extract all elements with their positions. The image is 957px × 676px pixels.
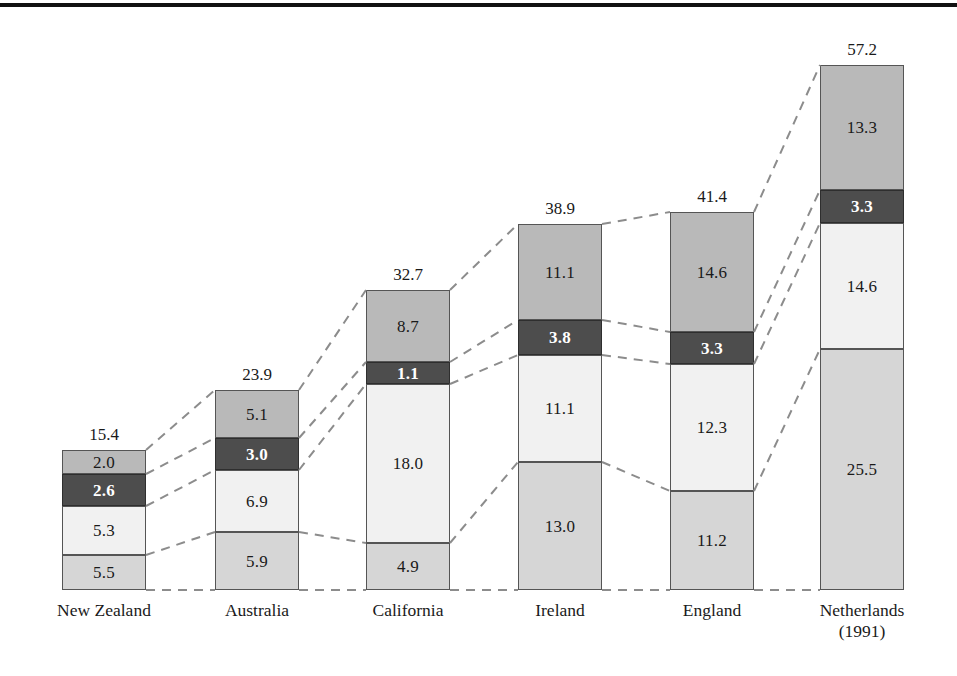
bar-segment: 5.1	[215, 390, 299, 438]
bar-segment: 5.9	[215, 532, 299, 590]
category-label: New Zealand	[24, 600, 184, 621]
category-label-text: New Zealand	[57, 600, 151, 620]
bar-total-label: 38.9	[518, 200, 602, 217]
bar-segment: 18.0	[366, 384, 450, 543]
segment-value-label: 18.0	[393, 455, 424, 472]
segment-value-label: 12.3	[697, 419, 728, 436]
bar-segment: 3.3	[670, 332, 754, 364]
stacked-bar: 5.13.06.95.9	[215, 0, 299, 590]
bar-segment: 11.2	[670, 491, 754, 590]
bar-total-label: 41.4	[670, 188, 754, 205]
category-label-text: Ireland	[535, 600, 585, 620]
segment-value-label: 1.1	[397, 365, 419, 382]
category-label-text: Australia	[225, 600, 289, 620]
segment-value-label: 3.3	[701, 340, 723, 357]
segment-value-label: 3.0	[246, 446, 268, 463]
category-label-text: California	[373, 600, 444, 620]
category-label-text: England	[683, 600, 741, 620]
segment-value-label: 4.9	[397, 558, 419, 575]
category-label: Ireland	[480, 600, 640, 621]
segment-value-label: 2.6	[93, 482, 115, 499]
bar-segment: 11.1	[518, 355, 602, 462]
bar-total-label: 57.2	[820, 41, 904, 58]
segment-value-label: 5.3	[93, 522, 115, 539]
segment-value-label: 25.5	[847, 461, 878, 478]
bar-total-label: 23.9	[215, 366, 299, 383]
stacked-bar: 13.33.314.625.5	[820, 0, 904, 590]
segment-value-label: 6.9	[246, 493, 268, 510]
bar-segment: 3.0	[215, 438, 299, 470]
bar-segment: 8.7	[366, 290, 450, 362]
bar-segment: 14.6	[820, 223, 904, 349]
bar-total-label: 15.4	[62, 426, 146, 443]
segment-value-label: 5.1	[246, 406, 268, 423]
category-sublabel-text: (1991)	[782, 621, 942, 642]
stacked-bar: 11.13.811.113.0	[518, 0, 602, 590]
bar-segment: 6.9	[215, 470, 299, 532]
category-label: Netherlands(1991)	[782, 600, 942, 643]
bar-segment: 3.3	[820, 190, 904, 223]
stacked-bar: 2.02.65.35.5	[62, 0, 146, 590]
bar-segment: 1.1	[366, 362, 450, 384]
bar-segment: 13.3	[820, 65, 904, 190]
category-label: California	[328, 600, 488, 621]
segment-value-label: 11.2	[697, 532, 727, 549]
bar-segment: 2.6	[62, 474, 146, 506]
segment-value-label: 5.5	[93, 564, 115, 581]
segment-value-label: 11.1	[545, 264, 575, 281]
bar-segment: 2.0	[62, 450, 146, 474]
stacked-bar: 14.63.312.311.2	[670, 0, 754, 590]
bar-segment: 25.5	[820, 349, 904, 590]
bar-segment: 3.8	[518, 320, 602, 355]
category-label: England	[632, 600, 792, 621]
bar-segment: 5.3	[62, 506, 146, 555]
segment-value-label: 3.8	[549, 329, 571, 346]
segment-value-label: 13.3	[847, 119, 878, 136]
bar-segment: 14.6	[670, 212, 754, 332]
stacked-bar: 8.71.118.04.9	[366, 0, 450, 590]
segment-value-label: 14.6	[847, 278, 878, 295]
segment-value-label: 3.3	[851, 198, 873, 215]
segment-value-label: 8.7	[397, 318, 419, 335]
bar-segment: 13.0	[518, 462, 602, 590]
figure-canvas: 2.02.65.35.515.4New Zealand5.13.06.95.92…	[0, 0, 957, 676]
segment-value-label: 13.0	[545, 518, 576, 535]
bar-segment: 5.5	[62, 555, 146, 590]
category-label-text: Netherlands	[820, 600, 905, 620]
bar-total-label: 32.7	[366, 266, 450, 283]
bar-segment: 11.1	[518, 224, 602, 320]
segment-value-label: 11.1	[545, 400, 575, 417]
segment-value-label: 5.9	[246, 553, 268, 570]
bar-segment: 4.9	[366, 543, 450, 590]
segment-value-label: 2.0	[93, 454, 115, 471]
bar-segment: 12.3	[670, 364, 754, 491]
category-label: Australia	[177, 600, 337, 621]
segment-value-label: 14.6	[697, 264, 728, 281]
plot-area: 2.02.65.35.515.4New Zealand5.13.06.95.92…	[0, 0, 957, 676]
